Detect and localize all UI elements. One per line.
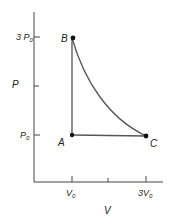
- segment-c-a: [72, 135, 146, 136]
- x-axis-label: V: [104, 205, 112, 216]
- y-tick-label-p0: P0: [20, 130, 30, 141]
- point-c: [144, 134, 149, 139]
- y-tick-label-3p0: 3 P0: [16, 32, 34, 43]
- point-c-label: C: [150, 138, 158, 149]
- x-tick-label-3v0: 3V0: [138, 188, 153, 199]
- segment-b-c-curve: [72, 38, 146, 136]
- point-b-label: B: [61, 33, 68, 44]
- point-b: [71, 36, 76, 41]
- point-a: [70, 133, 74, 137]
- point-a-label: A: [57, 137, 65, 148]
- y-axis-label: P: [12, 79, 19, 90]
- pv-diagram: A B C 3 P0 P0 P V0 3V0 V: [0, 0, 170, 220]
- x-tick-label-v0: V0: [66, 188, 76, 199]
